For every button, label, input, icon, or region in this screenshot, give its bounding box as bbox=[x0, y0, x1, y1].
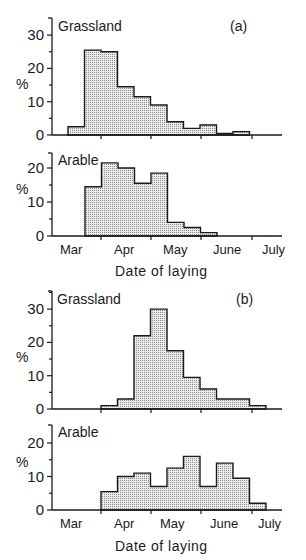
panel-tag: (b) bbox=[236, 291, 253, 307]
month-label-june: June bbox=[210, 516, 238, 531]
y-tick-label: 20 bbox=[27, 434, 44, 451]
y-axis-label: % bbox=[16, 76, 28, 92]
month-labels: Mar Apr May June July bbox=[60, 516, 282, 531]
panel-title: Arable bbox=[58, 152, 99, 168]
bars bbox=[101, 309, 266, 409]
panel-title: Grassland bbox=[58, 18, 122, 34]
y-ticks: 0102030 bbox=[27, 26, 52, 143]
panel-title: Grassland bbox=[57, 291, 121, 307]
month-labels: Mar Apr May June July bbox=[60, 242, 286, 257]
y-ticks: 0102030 bbox=[27, 292, 52, 417]
y-tick-label: 10 bbox=[27, 193, 44, 210]
y-tick-label: 0 bbox=[36, 501, 44, 518]
x-axis-label: Date of laying bbox=[115, 538, 208, 554]
month-label-mar: Mar bbox=[60, 242, 83, 257]
y-axis-label: % bbox=[16, 349, 28, 365]
y-ticks: 01020 bbox=[27, 434, 52, 518]
y-tick-label: 10 bbox=[27, 468, 44, 485]
month-label-may: May bbox=[160, 516, 185, 531]
month-label-may: May bbox=[163, 242, 188, 257]
month-label-mar: Mar bbox=[60, 516, 83, 531]
y-tick-label: 20 bbox=[27, 333, 44, 350]
histogram-bars bbox=[101, 309, 266, 409]
y-tick-label: 20 bbox=[27, 159, 44, 176]
y-tick-label: 0 bbox=[36, 126, 44, 143]
panel-a-arable: 01020 Arable % Mar Apr May June July Dat… bbox=[16, 152, 286, 279]
panel-b-grassland: 0102030 Grassland (b) % bbox=[16, 291, 282, 417]
y-tick-label: 0 bbox=[36, 227, 44, 244]
y-tick-label: 0 bbox=[36, 400, 44, 417]
month-label-apr: Apr bbox=[114, 242, 135, 257]
y-axis-label: % bbox=[16, 454, 28, 470]
y-axis-label: % bbox=[16, 181, 28, 197]
histogram-bars bbox=[68, 50, 250, 135]
month-label-june: June bbox=[213, 242, 241, 257]
y-ticks: 01020 bbox=[27, 159, 52, 244]
bars bbox=[85, 163, 217, 236]
y-tick-label: 30 bbox=[27, 300, 44, 317]
histogram-bars bbox=[101, 456, 266, 510]
month-label-july: July bbox=[258, 516, 282, 531]
y-tick-label: 30 bbox=[27, 26, 44, 43]
month-label-july: July bbox=[262, 242, 286, 257]
panel-title: Arable bbox=[58, 424, 99, 440]
y-tick-label: 10 bbox=[27, 93, 44, 110]
figure-canvas: 0102030 Grassland (a) % 01020 Arable % M… bbox=[0, 0, 306, 560]
month-label-apr: Apr bbox=[114, 516, 135, 531]
bars bbox=[101, 456, 266, 510]
y-tick-label: 10 bbox=[27, 367, 44, 384]
panel-tag: (a) bbox=[230, 18, 247, 34]
bars bbox=[68, 50, 250, 135]
panel-a-grassland: 0102030 Grassland (a) % bbox=[16, 18, 282, 143]
panel-b-arable: 01020 Arable % Mar Apr May June July Dat… bbox=[16, 424, 282, 554]
y-tick-label: 20 bbox=[27, 59, 44, 76]
x-axis-label: Date of laying bbox=[115, 263, 208, 279]
histogram-bars bbox=[85, 163, 217, 236]
